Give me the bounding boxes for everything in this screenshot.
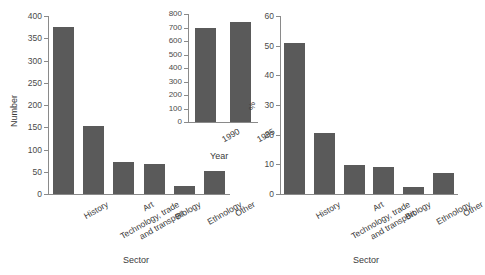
y-axis-tick bbox=[44, 105, 48, 106]
y-axis-tick-label: 700 bbox=[144, 24, 182, 32]
y-axis-tick bbox=[184, 14, 188, 15]
y-axis-tick-label: 40 bbox=[236, 71, 274, 80]
x-axis-title-number: Sector bbox=[123, 256, 149, 265]
y-axis-tick-label: 50 bbox=[236, 41, 274, 50]
y-axis-tick bbox=[44, 61, 48, 62]
y-axis-tick bbox=[184, 95, 188, 96]
bar bbox=[144, 164, 165, 194]
y-axis-tick bbox=[276, 164, 280, 165]
y-axis-tick bbox=[276, 16, 280, 17]
y-axis-tick-label: 400 bbox=[4, 12, 42, 21]
y-axis-tick-label: 60 bbox=[236, 12, 274, 21]
y-axis-tick bbox=[184, 55, 188, 56]
bar bbox=[174, 186, 195, 194]
y-axis-line-inset bbox=[188, 14, 189, 122]
y-axis-tick-label: 100 bbox=[4, 145, 42, 154]
y-axis-tick bbox=[184, 41, 188, 42]
y-axis-tick-label: 20 bbox=[236, 130, 274, 139]
x-axis-category-label: History bbox=[314, 200, 342, 222]
y-axis-tick bbox=[44, 172, 48, 173]
y-axis-tick-label: 500 bbox=[144, 51, 182, 59]
bar bbox=[204, 171, 225, 194]
x-axis-title-inset: Year bbox=[210, 152, 228, 161]
y-axis-tick-label: 200 bbox=[144, 91, 182, 99]
y-axis-tick-label: 0 bbox=[4, 190, 42, 199]
y-axis-tick-label: 0 bbox=[236, 190, 274, 199]
x-axis-line-number bbox=[48, 194, 230, 195]
y-axis-tick-label: 50 bbox=[4, 168, 42, 177]
bar bbox=[195, 28, 217, 122]
y-axis-tick bbox=[44, 127, 48, 128]
y-axis-line-number bbox=[48, 16, 49, 194]
y-axis-tick bbox=[184, 28, 188, 29]
bar bbox=[83, 126, 104, 194]
y-axis-tick bbox=[44, 150, 48, 151]
chart-panel-percent: % Sector 0102030405060HistoryTechnology,… bbox=[240, 0, 475, 275]
y-axis-tick bbox=[44, 194, 48, 195]
y-axis-tick-label: 300 bbox=[144, 78, 182, 86]
y-axis-tick-label: 150 bbox=[4, 123, 42, 132]
y-axis-tick bbox=[44, 38, 48, 39]
y-axis-tick bbox=[44, 16, 48, 17]
y-axis-tick bbox=[184, 68, 188, 69]
y-axis-tick-label: 0 bbox=[144, 118, 182, 126]
y-axis-tick-label: 600 bbox=[144, 37, 182, 45]
bar bbox=[53, 27, 74, 194]
bar bbox=[373, 167, 394, 194]
y-axis-tick bbox=[276, 105, 280, 106]
y-axis-tick bbox=[184, 122, 188, 123]
x-axis-category-label: History bbox=[83, 200, 111, 222]
y-axis-tick-label: 200 bbox=[4, 101, 42, 110]
y-axis-tick-label: 300 bbox=[4, 56, 42, 65]
x-axis-line-percent bbox=[280, 194, 458, 195]
y-axis-tick-label: 10 bbox=[236, 160, 274, 169]
x-axis-title-percent: Sector bbox=[353, 256, 379, 265]
y-axis-tick-label: 100 bbox=[144, 105, 182, 113]
y-axis-tick-label: 800 bbox=[144, 10, 182, 18]
bar bbox=[344, 165, 365, 194]
bar bbox=[433, 173, 454, 194]
plot-area-percent bbox=[280, 16, 458, 194]
y-axis-tick bbox=[276, 75, 280, 76]
bar bbox=[113, 162, 134, 194]
y-axis-tick bbox=[276, 46, 280, 47]
y-axis-tick bbox=[276, 135, 280, 136]
y-axis-tick-label: 30 bbox=[236, 101, 274, 110]
y-axis-tick bbox=[44, 83, 48, 84]
y-axis-tick-label: 250 bbox=[4, 79, 42, 88]
y-axis-tick-label: 400 bbox=[144, 64, 182, 72]
bar bbox=[403, 187, 424, 194]
bar bbox=[314, 133, 335, 194]
y-axis-line-percent bbox=[280, 16, 281, 194]
y-axis-tick bbox=[184, 109, 188, 110]
y-axis-tick bbox=[184, 82, 188, 83]
y-axis-tick-label: 350 bbox=[4, 34, 42, 43]
y-axis-tick bbox=[276, 194, 280, 195]
bar bbox=[284, 43, 305, 194]
